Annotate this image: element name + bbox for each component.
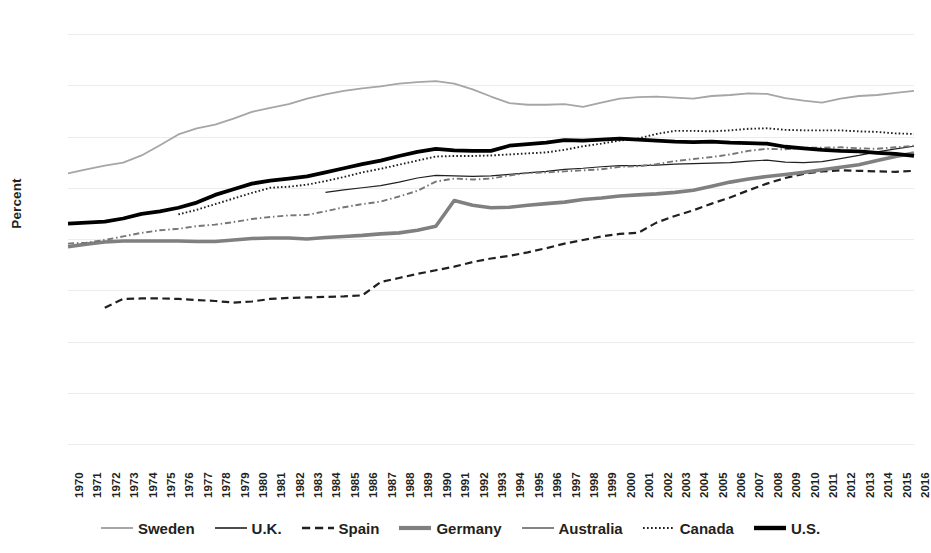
series-line-germany: [68, 153, 914, 247]
legend-item-uk[interactable]: U.K.: [214, 520, 282, 537]
legend-item-germany[interactable]: Germany: [398, 520, 501, 537]
series-line-australia: [68, 146, 914, 244]
x-axis-tick-label: 2005: [717, 472, 729, 498]
x-axis-tick-label: 1979: [239, 472, 251, 498]
legend-swatch-uk-icon: [214, 522, 248, 534]
legend-swatch-spain-icon: [301, 522, 335, 534]
x-axis-tick-label: 1999: [606, 472, 618, 498]
x-axis-tick-label: 1977: [202, 472, 214, 498]
x-axis-tick-label: 1975: [165, 472, 177, 498]
x-axis-tick-label: 1988: [404, 472, 416, 498]
y-axis-title: Percent: [9, 164, 24, 244]
x-axis-tick-label: 1998: [588, 472, 600, 498]
x-axis-tick-label: 2010: [809, 472, 821, 498]
x-axis-tick-label: 1971: [91, 472, 103, 498]
x-axis-tick-label: 1970: [73, 472, 85, 498]
x-axis-tick-label: 2000: [625, 472, 637, 498]
legend-label: Canada: [680, 520, 734, 537]
legend-label: U.K.: [252, 520, 282, 537]
legend-swatch-germany-icon: [398, 522, 432, 534]
x-axis-tick-label: 1991: [459, 472, 471, 498]
x-axis-tick-label: 1985: [349, 472, 361, 498]
chart-legend: SwedenU.K.SpainGermanyAustraliaCanadaU.S…: [0, 508, 920, 548]
legend-label: U.S.: [791, 520, 820, 537]
x-axis-tick-label: 2007: [753, 472, 765, 498]
x-axis-tick-label: 1980: [257, 472, 269, 498]
legend-label: Germany: [436, 520, 501, 537]
x-axis-tick-label: 2009: [790, 472, 802, 498]
legend-label: Australia: [559, 520, 623, 537]
x-axis-tick-label: 2011: [827, 473, 839, 498]
x-axis-tick-label: 1992: [478, 472, 490, 498]
legend-swatch-canada-icon: [642, 522, 676, 534]
x-axis-tick-label: 1987: [386, 472, 398, 498]
x-axis-tick-label: 2015: [901, 472, 913, 498]
x-axis-tick-label: 1993: [496, 472, 508, 498]
series-lines: [68, 34, 914, 444]
x-axis-tick-label: 1982: [294, 472, 306, 498]
legend-label: Sweden: [138, 520, 195, 537]
x-axis-tick-label: 1973: [128, 472, 140, 498]
x-axis-tick-label: 1978: [220, 472, 232, 498]
x-axis-tick-label: 2013: [864, 472, 876, 498]
x-axis-tick-label: 2006: [735, 472, 747, 498]
legend-item-us[interactable]: U.S.: [753, 520, 820, 537]
plot-area: [68, 34, 914, 444]
x-axis-tick-label: 1995: [533, 472, 545, 498]
x-axis-tick-label: 1997: [570, 472, 582, 498]
x-axis-tick-label: 2003: [680, 472, 692, 498]
x-axis-tick-label: 1981: [275, 472, 287, 498]
legend-label: Spain: [339, 520, 380, 537]
x-axis-tick-label: 1990: [441, 472, 453, 498]
x-axis-tick-label: 2004: [698, 472, 710, 498]
x-axis-tick-label: 1976: [183, 472, 195, 498]
legend-swatch-us-icon: [753, 522, 787, 534]
x-axis-tick-label: 2014: [882, 472, 894, 498]
x-axis-tick-label: 1989: [422, 472, 434, 498]
legend-swatch-australia-icon: [521, 522, 555, 534]
legend-item-spain[interactable]: Spain: [301, 520, 380, 537]
x-axis-tick-label: 2016: [919, 472, 931, 498]
x-axis-tick-label: 1974: [147, 472, 159, 498]
x-axis-tick-label: 2008: [772, 472, 784, 498]
legend-item-australia[interactable]: Australia: [521, 520, 623, 537]
legend-swatch-sweden-icon: [100, 522, 134, 534]
x-axis-tick-label: 1996: [551, 472, 563, 498]
x-axis-tick-label: 2002: [662, 472, 674, 498]
legend-item-sweden[interactable]: Sweden: [100, 520, 195, 537]
x-axis-tick-label: 1986: [367, 472, 379, 498]
series-line-sweden: [68, 81, 914, 173]
x-axis-tick-label: 1983: [312, 472, 324, 498]
gridline: [68, 444, 914, 445]
x-axis-tick-label: 1972: [110, 472, 122, 498]
x-axis-tick-label: 1984: [330, 472, 342, 498]
x-axis-tick-label: 2012: [845, 472, 857, 498]
series-line-us: [68, 139, 914, 224]
x-axis-tick-label: 1994: [514, 472, 526, 498]
x-axis-tick-label: 2001: [643, 472, 655, 498]
legend-item-canada[interactable]: Canada: [642, 520, 734, 537]
x-axis-ticks: 1970197119721973197419751976197719781979…: [68, 446, 914, 502]
